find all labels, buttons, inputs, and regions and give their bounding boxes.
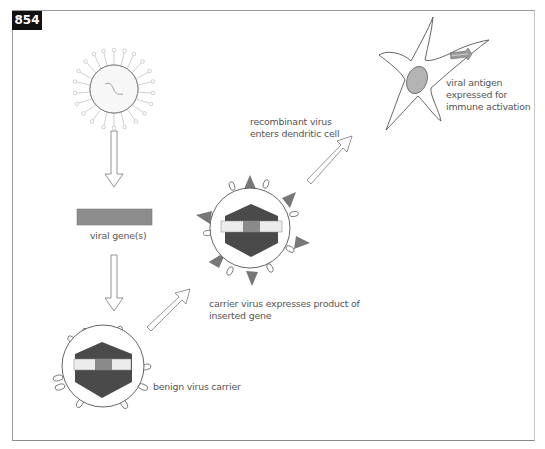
- label-antigen-3: immune activation: [446, 101, 531, 113]
- label-benign-carrier: benign virus carrier: [153, 381, 241, 393]
- label-antigen-1: viral antigen: [446, 77, 502, 89]
- label-carrier-expresses-1: carrier virus expresses product of: [209, 298, 360, 310]
- wild-virus-spikes: [0, 0, 545, 449]
- label-carrier-expresses-2: inserted gene: [209, 310, 271, 322]
- label-viral-genes: viral gene(s): [90, 230, 146, 242]
- label-recombinant-enters-2: enters dendritic cell: [250, 128, 339, 140]
- label-recombinant-enters-1: recombinant virus: [250, 116, 332, 128]
- label-antigen-2: expressed for: [446, 89, 507, 101]
